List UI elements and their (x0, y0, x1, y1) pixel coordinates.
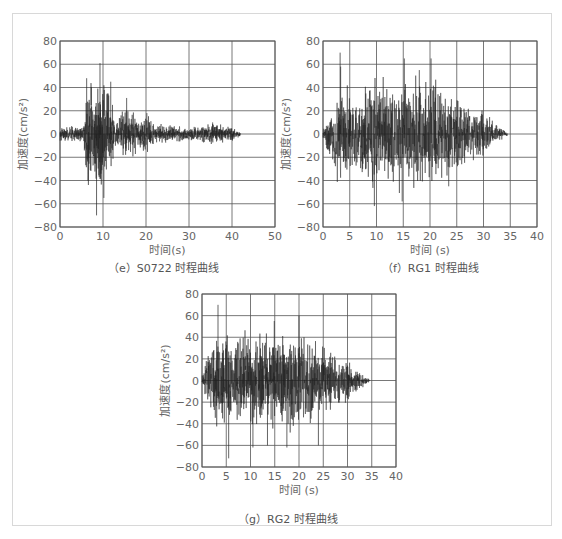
x-tick-label: 35 (365, 470, 379, 483)
x-axis-label: 时间 (s) (410, 244, 450, 257)
y-tick-label: 0 (192, 375, 199, 388)
y-axis-label: 加速度(cm/s²) (16, 98, 30, 170)
x-tick-label: 0 (199, 470, 206, 483)
y-tick-label: 40 (43, 82, 57, 95)
y-tick-label: −80 (176, 461, 199, 474)
x-tick-label: 40 (389, 470, 403, 483)
y-tick-label: 80 (43, 35, 57, 48)
waveform-line (202, 330, 369, 432)
x-tick-label: 10 (244, 470, 258, 483)
x-tick-label: 30 (182, 230, 196, 243)
x-tick-label: 10 (370, 230, 384, 243)
x-tick-label: 50 (268, 230, 282, 243)
x-tick-label: 25 (450, 230, 464, 243)
y-tick-label: 40 (306, 82, 320, 95)
x-tick-label: 0 (57, 230, 64, 243)
x-tick-label: 5 (223, 470, 230, 483)
y-tick-label: −60 (176, 439, 199, 452)
y-tick-label: 60 (306, 58, 320, 71)
x-tick-label: 20 (423, 230, 437, 243)
y-tick-label: 0 (50, 128, 57, 141)
y-tick-label: 20 (43, 105, 57, 118)
y-tick-label: −40 (297, 175, 320, 188)
x-tick-label: 20 (292, 470, 306, 483)
x-tick-label: 40 (530, 230, 544, 243)
y-tick-label: −40 (176, 418, 199, 431)
x-tick-label: 0 (320, 230, 327, 243)
y-tick-label: −40 (34, 175, 57, 188)
caption-g: （g）RG2 时程曲线 (238, 510, 338, 526)
x-tick-label: 20 (139, 230, 153, 243)
x-axis-label: 时间 (s) (279, 484, 319, 497)
chart-g: 806040200−20−40−60−800510152025303540时间 … (158, 288, 403, 497)
x-axis-label: 时间(s) (149, 244, 185, 257)
y-tick-label: 60 (43, 58, 57, 71)
y-tick-label: 60 (185, 310, 199, 323)
chart-f: 806040200−20−40−60−800510152025303540时间 … (279, 35, 544, 257)
waveform-line (323, 76, 508, 193)
x-tick-label: 5 (346, 230, 353, 243)
x-tick-label: 15 (268, 470, 282, 483)
y-tick-label: 0 (313, 128, 320, 141)
x-tick-label: 15 (396, 230, 410, 243)
y-tick-label: −20 (297, 151, 320, 164)
chart-e: 806040200−20−40−60−8001020304050时间(s)加速度… (16, 35, 282, 257)
y-tick-label: −20 (34, 151, 57, 164)
x-tick-label: 30 (477, 230, 491, 243)
y-tick-label: −60 (34, 198, 57, 211)
x-tick-label: 40 (225, 230, 239, 243)
y-tick-label: 40 (185, 331, 199, 344)
y-tick-label: −20 (176, 396, 199, 409)
y-axis-label: 加速度(cm/s²) (279, 98, 293, 170)
waveform-line (60, 83, 241, 185)
y-tick-label: −80 (297, 221, 320, 234)
y-tick-label: 20 (185, 353, 199, 366)
caption-e: （e）S0722 时程曲线 (108, 259, 219, 275)
y-tick-label: 80 (185, 288, 199, 301)
caption-f: （f）RG1 时程曲线 (382, 259, 479, 275)
y-axis-label: 加速度(cm/s²) (158, 344, 172, 416)
y-tick-label: 80 (306, 35, 320, 48)
y-tick-label: −80 (34, 221, 57, 234)
x-tick-label: 10 (96, 230, 110, 243)
x-tick-label: 30 (341, 470, 355, 483)
x-tick-label: 35 (503, 230, 517, 243)
y-tick-label: 20 (306, 105, 320, 118)
x-tick-label: 25 (316, 470, 330, 483)
y-tick-label: −60 (297, 198, 320, 211)
